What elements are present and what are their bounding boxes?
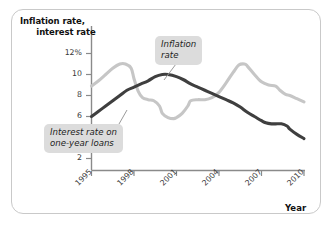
series-line-inflation-rate — [92, 74, 305, 138]
y-axis-title-line1: Inflation rate, — [20, 16, 85, 26]
annotation-inflation-line2: rate — [161, 50, 178, 60]
annotation-interest-line1: Interest rate on — [50, 127, 117, 137]
y-tick-label-12: 12% — [56, 49, 82, 57]
chart-figure: Inflation rate, interest rate Year 12% 1… — [0, 0, 332, 227]
y-tick-label-8: 8 — [56, 91, 82, 99]
y-tick-label-10: 10 — [56, 70, 82, 78]
annotation-inflation-line1: Inflation — [161, 39, 196, 49]
y-tick-label-6: 6 — [56, 112, 82, 120]
leader-line-inflation — [164, 64, 176, 80]
y-tick-label-2: 2 — [56, 154, 82, 162]
x-axis-title: Year — [285, 203, 306, 213]
y-axis-title: Inflation rate, interest rate — [20, 16, 112, 38]
annotation-inflation-rate: Inflation rate — [155, 36, 202, 65]
annotation-interest-line2: one-year loans — [50, 138, 114, 148]
leader-line-interest — [119, 110, 127, 124]
annotation-interest-rate: Interest rate on one-year loans — [44, 124, 123, 153]
y-axis-title-line2: interest rate — [20, 27, 112, 38]
